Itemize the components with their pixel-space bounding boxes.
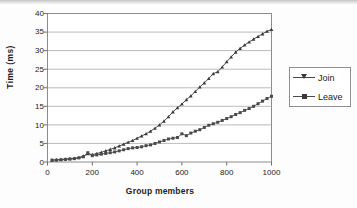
legend-item-leave[interactable]: Leave xyxy=(290,87,350,107)
data-point xyxy=(136,146,139,149)
data-point xyxy=(131,146,134,149)
data-point xyxy=(140,145,143,148)
chart-figure: Time (ms) Group members 40 35 30 25 20 1… xyxy=(0,0,357,208)
data-point xyxy=(257,102,260,105)
data-point xyxy=(270,95,273,98)
data-point xyxy=(82,155,85,158)
data-point xyxy=(230,115,233,118)
data-point xyxy=(109,151,112,154)
data-point xyxy=(162,139,165,142)
data-point xyxy=(167,137,170,140)
data-point xyxy=(100,153,103,156)
data-point xyxy=(252,105,255,108)
data-point xyxy=(59,158,62,161)
data-point xyxy=(55,159,58,162)
data-point xyxy=(95,153,98,156)
data-point xyxy=(154,142,157,145)
data-point xyxy=(68,158,71,161)
data-point xyxy=(104,152,107,155)
data-point xyxy=(185,134,188,137)
data-point xyxy=(118,149,121,152)
legend-marker-triangle-icon xyxy=(293,73,315,83)
legend-item-join[interactable]: Join xyxy=(290,68,350,88)
data-point xyxy=(86,151,89,154)
data-point xyxy=(77,156,80,159)
data-point xyxy=(91,154,94,157)
data-point xyxy=(194,130,197,133)
data-point xyxy=(122,148,125,151)
data-point xyxy=(261,100,264,103)
data-point xyxy=(158,140,161,143)
data-point xyxy=(64,158,67,161)
data-point xyxy=(212,122,215,125)
chart-legend[interactable]: Join Leave xyxy=(289,67,351,107)
data-point xyxy=(234,113,237,116)
data-point xyxy=(145,144,148,147)
data-point xyxy=(149,143,152,146)
data-point xyxy=(73,157,76,160)
data-point xyxy=(50,159,53,162)
data-point xyxy=(266,97,269,100)
data-point xyxy=(113,150,116,153)
data-point xyxy=(207,124,210,127)
data-point xyxy=(189,132,192,135)
data-point xyxy=(243,109,246,112)
data-point xyxy=(221,119,224,122)
data-point xyxy=(180,132,183,135)
data-point xyxy=(216,121,219,124)
data-point xyxy=(171,137,174,140)
data-point xyxy=(225,117,228,120)
legend-marker-square-icon xyxy=(293,92,315,102)
legend-label: Leave xyxy=(318,92,343,102)
data-point xyxy=(239,111,242,114)
data-point xyxy=(127,147,130,150)
data-point xyxy=(176,136,179,139)
data-point xyxy=(248,107,251,110)
legend-label: Join xyxy=(318,73,335,83)
data-point xyxy=(203,126,206,129)
data-point xyxy=(198,128,201,131)
